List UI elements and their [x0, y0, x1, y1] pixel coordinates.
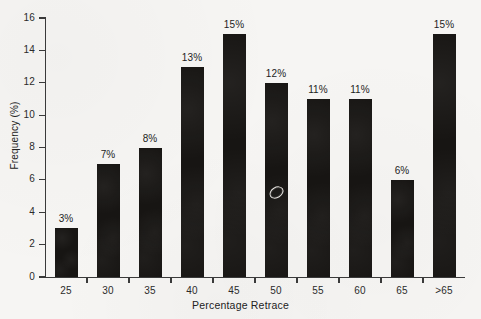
bar-data-label: 6% — [380, 165, 424, 176]
bar — [97, 164, 120, 277]
x-axis-tick-label: 40 — [170, 285, 214, 296]
bar — [391, 180, 414, 277]
bar-data-label: 11% — [296, 84, 340, 95]
bar — [181, 67, 204, 277]
bar-data-label: 8% — [128, 133, 172, 144]
x-axis-tick — [422, 277, 423, 283]
y-axis-tick-label: 2 — [0, 238, 35, 249]
bar — [433, 34, 456, 277]
y-axis-tick — [39, 82, 46, 83]
x-axis-tick-label: 35 — [128, 285, 172, 296]
bar-data-label: 12% — [254, 68, 298, 79]
x-axis-tick-label: 60 — [338, 285, 382, 296]
bar-chart-figure: 0246810121416 3%7%8%13%15%12%11%11%6%15%… — [0, 0, 481, 319]
bar — [139, 148, 162, 278]
x-axis-tick — [86, 277, 87, 283]
bar-data-label: 13% — [170, 52, 214, 63]
y-axis-tick — [39, 179, 46, 180]
bar-data-label: 3% — [44, 213, 88, 224]
x-axis-tick — [212, 277, 213, 283]
y-axis-tick — [39, 276, 46, 277]
x-axis-tick — [170, 277, 171, 283]
x-axis-tick — [296, 277, 297, 283]
y-axis-tick — [39, 17, 46, 18]
x-axis-tick — [380, 277, 381, 283]
x-axis-tick-label: 55 — [296, 285, 340, 296]
y-axis-tick-label: 14 — [0, 44, 35, 55]
y-axis-tick-label: 4 — [0, 206, 35, 217]
y-axis-tick — [39, 244, 46, 245]
y-axis-tick — [39, 50, 46, 51]
y-axis-tick-label: 0 — [0, 271, 35, 282]
x-axis-tick-label: 30 — [86, 285, 130, 296]
bar — [55, 228, 78, 277]
bar — [307, 99, 330, 277]
x-axis-tick — [128, 277, 129, 283]
y-axis-title: Frequency (%) — [9, 76, 20, 196]
bar — [349, 99, 372, 277]
y-axis-tick-label: 16 — [0, 12, 35, 23]
bar — [265, 83, 288, 277]
x-axis-tick-label: 50 — [254, 285, 298, 296]
x-axis-title: Percentage Retrace — [0, 299, 481, 311]
x-axis-tick-label: 25 — [44, 285, 88, 296]
x-axis-tick-label: >65 — [422, 285, 466, 296]
y-axis-tick — [39, 147, 46, 148]
x-axis-tick-label: 65 — [380, 285, 424, 296]
bar — [223, 34, 246, 277]
x-axis-tick — [338, 277, 339, 283]
bar-data-label: 15% — [212, 19, 256, 30]
bar-data-label: 7% — [86, 149, 130, 160]
x-axis-tick-label: 45 — [212, 285, 256, 296]
bar-data-label: 11% — [338, 84, 382, 95]
bar-data-label: 15% — [422, 19, 466, 30]
y-axis-tick — [39, 115, 46, 116]
x-axis-tick — [254, 277, 255, 283]
